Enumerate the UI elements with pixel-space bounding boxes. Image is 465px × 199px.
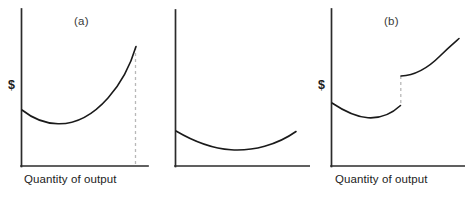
- cost-curves-figure: (a) $ Quantity of output (b) $ Quantity …: [0, 0, 465, 199]
- panel-a: (a) $ Quantity of output: [0, 0, 155, 199]
- x-axis-label-a: Quantity of output: [24, 173, 117, 185]
- panel-caption-a: (a): [74, 15, 89, 27]
- panel-b: (b) $ Quantity of output: [155, 0, 310, 199]
- cost-curve-a: [22, 47, 136, 124]
- y-axis-label-a: $: [8, 78, 15, 92]
- panel-c: (c) $ Quantity of output: [310, 0, 465, 199]
- cost-curve-c-segment-1: [332, 103, 401, 118]
- cost-curve-b: [176, 131, 296, 150]
- cost-curve-c-segment-2: [401, 39, 459, 77]
